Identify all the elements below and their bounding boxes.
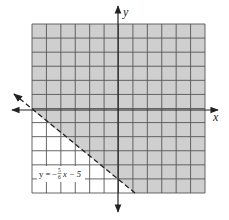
equation-suffix: x − 5 xyxy=(62,169,81,179)
inequality-graph: y x y = − 5 6 x − 5 xyxy=(0,0,229,220)
equation-prefix: y = − xyxy=(39,169,57,179)
fraction-denominator: 6 xyxy=(58,174,61,180)
equation-label: y = − 5 6 x − 5 xyxy=(37,166,85,182)
svg-text:y = −: y = − xyxy=(39,169,57,179)
fraction-numerator: 5 xyxy=(58,167,61,173)
y-axis-label: y xyxy=(122,5,129,19)
x-axis-label: x xyxy=(212,110,219,124)
